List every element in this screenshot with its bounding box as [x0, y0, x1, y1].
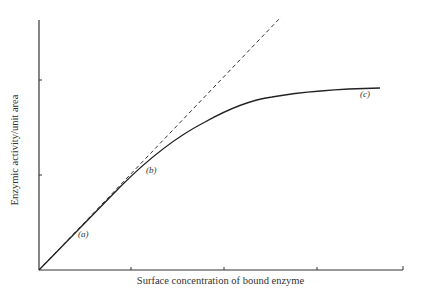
annotation-a: (a) — [78, 229, 89, 239]
y-axis-label: Enzymic activity/unit area — [9, 95, 20, 206]
activity-curve — [39, 88, 380, 270]
annotation-c: (c) — [360, 89, 370, 99]
chart-canvas — [0, 0, 433, 295]
x-axis-label-wrap: Surface concentration of bound enzyme — [0, 275, 433, 286]
annotation-b: (b) — [146, 165, 157, 175]
x-axis-label: Surface concentration of bound enzyme — [137, 275, 304, 286]
